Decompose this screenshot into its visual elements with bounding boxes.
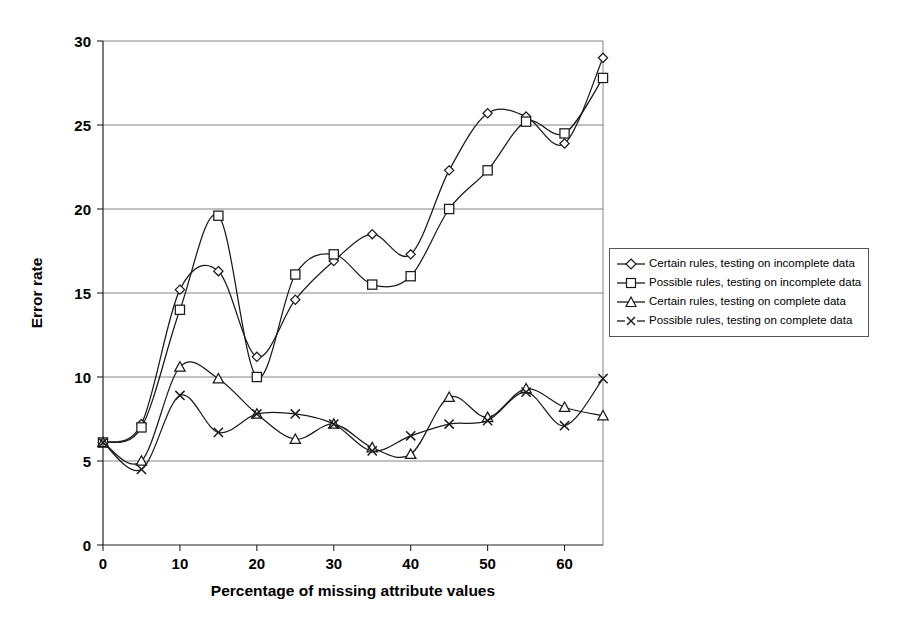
y-tick-label: 30 [74, 33, 91, 50]
legend-item: Certain rules, testing on incomplete dat… [616, 254, 861, 273]
x-axis-title: Percentage of missing attribute values [211, 582, 495, 599]
x-tick-label: 40 [402, 555, 419, 572]
y-axis-title: Error rate [28, 257, 45, 328]
legend-item: Possible rules, testing on complete data [616, 311, 861, 330]
data-point-marker-triangle [559, 402, 569, 411]
data-point-marker-square [598, 73, 607, 82]
x-tick-label: 50 [479, 555, 496, 572]
data-point-marker-diamond [368, 230, 377, 239]
data-point-marker-square [445, 204, 454, 213]
series-line [103, 379, 603, 471]
data-point-marker-square [291, 270, 300, 279]
data-point-marker-diamond [445, 166, 454, 175]
y-tick-label: 10 [74, 369, 91, 386]
data-point-marker-diamond [598, 53, 607, 62]
data-point-marker-cross [137, 465, 146, 474]
series-1 [98, 73, 607, 447]
legend-item: Certain rules, testing on complete data [616, 292, 861, 311]
legend-item: Possible rules, testing on incomplete da… [616, 273, 861, 292]
x-tick-label: 10 [172, 555, 189, 572]
data-point-marker-square [214, 211, 223, 220]
data-point-marker-square [483, 166, 492, 175]
data-point-marker-square [137, 423, 146, 432]
legend-item-label: Possible rules, testing on complete data [649, 314, 852, 327]
series-0 [98, 53, 607, 447]
x-tick-label: 0 [99, 555, 107, 572]
legend-item-label: Certain rules, testing on incomplete dat… [649, 257, 855, 270]
x-tick-label: 30 [325, 555, 342, 572]
data-point-marker-square [329, 250, 338, 259]
legend-marker-diamond-icon [616, 256, 646, 272]
data-point-marker-square [368, 280, 377, 289]
data-point-marker-square [560, 129, 569, 138]
y-tick-label: 15 [74, 285, 91, 302]
data-point-marker-triangle [213, 373, 223, 382]
data-point-marker-cross [406, 431, 415, 440]
y-tick-label: 0 [83, 537, 91, 554]
axis-ticks [97, 41, 565, 551]
y-tick-label: 20 [74, 201, 91, 218]
data-point-marker-square [521, 117, 530, 126]
legend-marker-triangle-icon [616, 294, 646, 310]
y-tick-label: 25 [74, 117, 91, 134]
axis-tick-labels: 0510152025300102030405060 [74, 33, 573, 573]
legend-marker-cross-icon [616, 313, 646, 329]
x-tick-label: 60 [556, 555, 573, 572]
data-point-marker-square [252, 372, 261, 381]
data-series [98, 53, 608, 474]
y-tick-label: 5 [83, 453, 91, 470]
legend-marker-square-icon [616, 275, 646, 291]
chart-legend: Certain rules, testing on incomplete dat… [609, 248, 869, 337]
chart-figure: 0510152025300102030405060 Percentage of … [0, 0, 917, 631]
x-tick-label: 20 [249, 555, 266, 572]
data-point-marker-square [175, 305, 184, 314]
legend-item-label: Certain rules, testing on complete data [649, 295, 846, 308]
data-point-marker-square [406, 272, 415, 281]
legend-item-label: Possible rules, testing on incomplete da… [649, 276, 861, 289]
